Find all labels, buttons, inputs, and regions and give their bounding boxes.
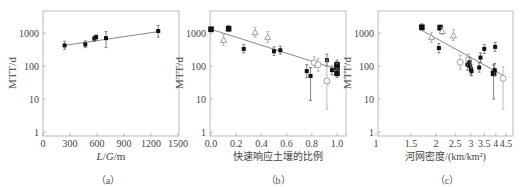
panel-a: 1101001000030060090012001500MTT/dL/G/m（a…: [6, 11, 188, 186]
data-point: [208, 26, 214, 32]
regression-line: [422, 30, 504, 76]
y-tick-label: 1: [369, 127, 374, 138]
data-point: [104, 32, 108, 48]
data-point: [437, 44, 441, 53]
panel-c: 110100100011.522.533.544.5MTT/d河网密度/(km/…: [341, 11, 513, 186]
data-point: [493, 42, 497, 51]
y-tick-label: 10: [29, 94, 39, 105]
regression-line: [65, 32, 159, 46]
data-point: [305, 65, 309, 78]
data-point: [482, 44, 486, 53]
x-tick-label: 1200: [141, 138, 161, 149]
data-point: [278, 46, 282, 54]
y-tick-label: 1: [201, 127, 206, 138]
x-axis-label: L/G/m: [96, 150, 126, 162]
y-tick-label: 1000: [354, 28, 374, 39]
data-point: [242, 44, 246, 52]
x-tick-label: 4: [493, 138, 498, 149]
panel-caption: （c）: [435, 175, 459, 186]
y-axis-label: MTT/d: [6, 57, 18, 89]
data-point: [252, 27, 258, 37]
x-tick-label: 3.5: [478, 138, 491, 149]
data-point: [309, 68, 313, 101]
x-tick-label: 900: [117, 138, 132, 149]
x-tick-label: 0.4: [255, 138, 268, 149]
x-tick-label: 0.6: [280, 138, 293, 149]
y-axis-label: MTT/d: [173, 57, 185, 89]
y-tick-label: 10: [196, 94, 206, 105]
x-tick-label: 1500: [168, 138, 188, 149]
x-tick-label: 0.0: [205, 138, 218, 149]
y-tick-label: 10: [364, 94, 374, 105]
x-tick-label: 2: [433, 138, 438, 149]
data-point: [156, 25, 160, 37]
data-point: [428, 32, 434, 42]
data-point: [450, 30, 456, 41]
data-point: [272, 47, 276, 55]
data-point: [500, 67, 506, 109]
data-point: [226, 25, 232, 31]
data-point: [221, 35, 227, 46]
x-tick-label: 1.5: [405, 138, 418, 149]
x-tick-label: 0.2: [230, 138, 243, 149]
x-tick-label: 1: [374, 138, 379, 149]
x-axis-label: 快速响应土壤的比例: [233, 150, 323, 162]
x-tick-label: 2.5: [449, 138, 462, 149]
y-tick-label: 100: [24, 61, 39, 72]
panel-b: 11010010000.00.20.40.60.81.0MTT/d快速响应土壤的…: [173, 11, 346, 186]
data-point: [265, 32, 271, 43]
x-tick-label: 0.8: [306, 138, 319, 149]
x-tick-label: 600: [90, 138, 105, 149]
x-tick-label: 300: [63, 138, 78, 149]
y-tick-label: 100: [191, 61, 206, 72]
figure-canvas: 1101001000030060090012001500MTT/dL/G/m（a…: [0, 0, 521, 187]
x-tick-label: 0: [41, 138, 46, 149]
y-tick-label: 1000: [19, 28, 39, 39]
x-tick-label: 4.5: [500, 138, 513, 149]
panel-caption: （b）: [266, 175, 291, 186]
x-tick-label: 3: [468, 138, 473, 149]
data-point: [419, 24, 425, 31]
y-tick-label: 100: [359, 61, 374, 72]
data-point: [94, 35, 98, 40]
data-point: [324, 60, 330, 109]
panel-caption: （a）: [96, 175, 120, 186]
data-point: [478, 53, 482, 62]
x-tick-label: 1.0: [331, 138, 344, 149]
y-tick-label: 1: [34, 127, 39, 138]
y-tick-label: 1000: [186, 28, 206, 39]
data-point: [63, 41, 67, 49]
data-point: [477, 63, 481, 72]
x-axis-label: 河网密度/(km/km²): [405, 150, 486, 163]
data-point: [457, 55, 463, 69]
y-axis-label: MTT/d: [341, 57, 353, 89]
